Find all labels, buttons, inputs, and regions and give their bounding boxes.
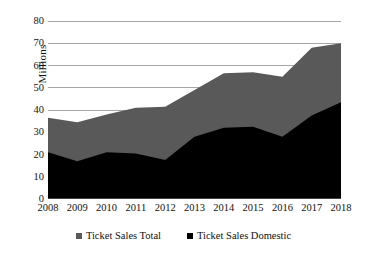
square-marker-icon — [187, 233, 193, 239]
y-axis-tick-label: 40 — [22, 105, 44, 116]
legend-item-ticket-sales-total[interactable]: Ticket Sales Total — [76, 231, 161, 242]
plot-area — [48, 21, 341, 199]
y-axis-tick-label: 80 — [22, 16, 44, 27]
legend-item-ticket-sales-domestic[interactable]: Ticket Sales Domestic — [187, 231, 291, 242]
y-axis-tick-label: 20 — [22, 149, 44, 160]
area-chart: Millions 01020304050607080 2008200920102… — [0, 0, 367, 254]
x-axis-tick-label: 2018 — [321, 203, 361, 214]
y-axis-tick-label: 10 — [22, 172, 44, 183]
plot-svg — [48, 21, 341, 199]
y-axis-tick-label: 60 — [22, 60, 44, 71]
y-axis-tick-labels: 01020304050607080 — [18, 21, 44, 199]
x-axis-tick-labels: 2008200920102011201220132014201520162017… — [48, 203, 341, 219]
legend-label: Ticket Sales Domestic — [197, 231, 291, 242]
legend-label: Ticket Sales Total — [86, 231, 161, 242]
y-axis-tick-label: 50 — [22, 83, 44, 94]
chart-legend: Ticket Sales Total Ticket Sales Domestic — [0, 231, 367, 242]
y-axis-tick-label: 30 — [22, 127, 44, 138]
y-axis-tick-label: 70 — [22, 38, 44, 49]
square-marker-icon — [76, 233, 82, 239]
